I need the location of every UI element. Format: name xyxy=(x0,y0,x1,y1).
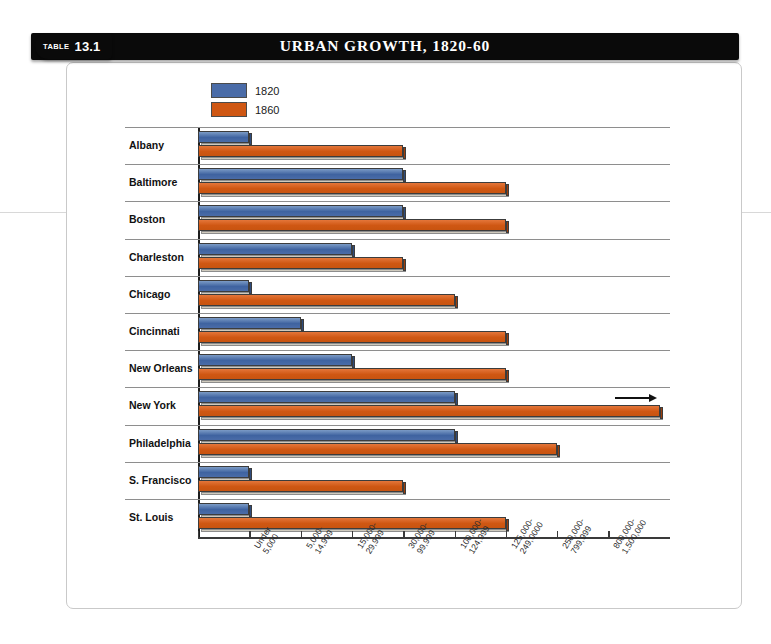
chart-row: S. Francisco xyxy=(125,462,670,499)
bar-1860-boston xyxy=(198,219,506,231)
chart-row: New York xyxy=(125,387,670,424)
bar-1820-baltimore xyxy=(198,168,403,180)
legend-swatch-icon xyxy=(211,102,247,117)
bar-1860-chicago xyxy=(198,294,455,306)
bar-end-cap xyxy=(301,319,304,331)
row-divider xyxy=(125,499,670,500)
legend-item-1860[interactable]: 1860 xyxy=(211,102,279,117)
category-label: Albany xyxy=(129,139,164,151)
bar-1820-new-york xyxy=(198,391,455,403)
chart-row: Chicago xyxy=(125,276,670,313)
bar-face xyxy=(198,280,249,292)
bar-face xyxy=(198,168,403,180)
row-divider xyxy=(125,462,670,463)
bar-shadow xyxy=(201,529,509,532)
bar-1860-cincinnati xyxy=(198,331,506,343)
category-label: Cincinnati xyxy=(129,325,180,337)
bar-1820-charleston xyxy=(198,243,352,255)
row-divider xyxy=(125,164,670,165)
category-label: Boston xyxy=(129,213,165,225)
row-divider xyxy=(125,387,670,388)
bar-shadow xyxy=(201,343,509,346)
chart-row: Baltimore xyxy=(125,164,670,201)
overflow-arrow-icon xyxy=(615,393,659,403)
bar-1820-new-orleans xyxy=(198,354,352,366)
bar-face xyxy=(198,503,249,515)
bar-face xyxy=(198,391,455,403)
row-divider xyxy=(125,201,670,202)
axis-tick xyxy=(352,531,353,538)
row-divider xyxy=(125,425,670,426)
bar-end-cap xyxy=(249,282,252,294)
bar-shadow xyxy=(201,455,560,458)
bar-1860-s-francisco xyxy=(198,480,403,492)
bar-end-cap xyxy=(660,407,663,419)
bar-face xyxy=(198,131,249,143)
row-divider xyxy=(125,350,670,351)
arrow-head xyxy=(649,394,657,402)
bar-1820-albany xyxy=(198,131,249,143)
bar-end-cap xyxy=(455,393,458,405)
table-badge-kicker: TABLE xyxy=(43,42,69,51)
category-label: St. Louis xyxy=(129,511,173,523)
bar-end-cap xyxy=(403,147,406,159)
bar-face xyxy=(198,243,352,255)
bar-shadow xyxy=(201,380,509,383)
legend-label: 1860 xyxy=(255,104,279,116)
bar-end-cap xyxy=(506,221,509,233)
bar-face xyxy=(198,205,403,217)
bar-1860-new-orleans xyxy=(198,368,506,380)
bar-shadow xyxy=(201,492,406,495)
bar-end-cap xyxy=(352,245,355,257)
bar-face xyxy=(198,219,506,231)
category-label: Baltimore xyxy=(129,176,177,188)
axis-tick xyxy=(249,531,250,538)
bar-end-cap xyxy=(249,505,252,517)
bar-end-cap xyxy=(506,333,509,345)
category-label: New York xyxy=(129,399,176,411)
legend-swatch-icon xyxy=(211,83,247,98)
axis-tick xyxy=(557,531,558,538)
chart-page: URBAN GROWTH, 1820-60 TABLE 13.1 1820186… xyxy=(0,0,771,644)
bar-1820-cincinnati xyxy=(198,317,301,329)
bar-end-cap xyxy=(455,431,458,443)
bar-end-cap xyxy=(455,296,458,308)
bar-1820-st-louis xyxy=(198,503,249,515)
bar-1820-s-francisco xyxy=(198,466,249,478)
bar-end-cap xyxy=(557,445,560,457)
bar-face xyxy=(198,257,403,269)
chart-row: Charleston xyxy=(125,239,670,276)
axis-tick-origin xyxy=(198,531,199,538)
bar-1860-baltimore xyxy=(198,182,506,194)
bar-end-cap xyxy=(249,133,252,145)
axis-tick xyxy=(455,531,456,538)
axis-tick xyxy=(608,531,609,538)
axis-tick xyxy=(301,531,302,538)
bar-end-cap xyxy=(506,519,509,531)
bar-shadow xyxy=(201,194,509,197)
bar-face xyxy=(198,480,403,492)
bar-end-cap xyxy=(506,370,509,382)
row-divider xyxy=(125,239,670,240)
legend-label: 1820 xyxy=(255,85,279,97)
bar-end-cap xyxy=(403,170,406,182)
bar-end-cap xyxy=(249,468,252,480)
axis-tick xyxy=(506,531,507,538)
bar-shadow xyxy=(201,157,406,160)
bar-end-cap xyxy=(352,356,355,368)
bar-face xyxy=(198,368,506,380)
axis-tick xyxy=(403,531,404,538)
bar-1820-boston xyxy=(198,205,403,217)
bar-1860-st-louis xyxy=(198,517,506,529)
legend-item-1820[interactable]: 1820 xyxy=(211,83,279,98)
bar-face xyxy=(198,294,455,306)
bar-face xyxy=(198,317,301,329)
bar-end-cap xyxy=(506,184,509,196)
bar-end-cap xyxy=(403,207,406,219)
plot-area: AlbanyBaltimoreBostonCharlestonChicagoCi… xyxy=(125,127,670,537)
chart-row: New Orleans xyxy=(125,350,670,387)
bar-face xyxy=(198,443,557,455)
chart-legend: 18201860 xyxy=(211,83,279,117)
chart-row: Boston xyxy=(125,201,670,238)
bar-end-cap xyxy=(403,482,406,494)
